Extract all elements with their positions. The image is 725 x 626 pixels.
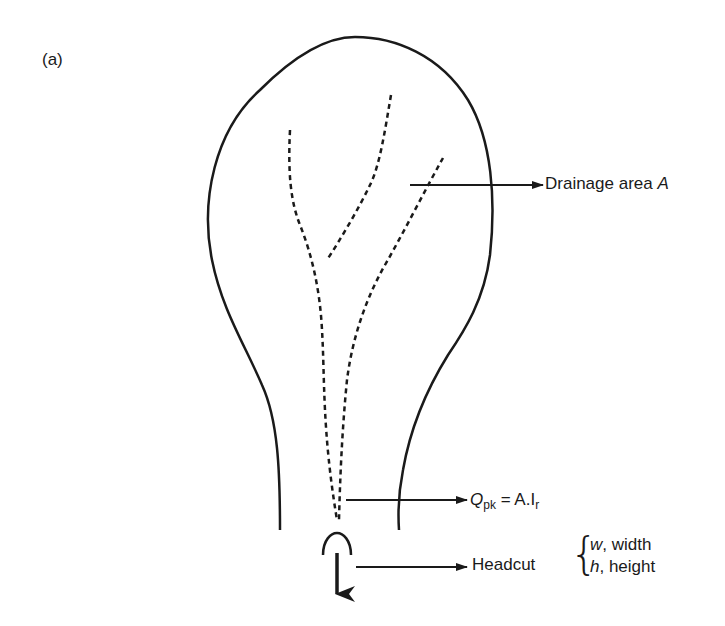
width-text: , width (602, 535, 651, 554)
peak-flow-equation: Qpk = A.Ir (470, 490, 539, 512)
headcut-height-label: h, height (590, 557, 655, 577)
headcut-arc (323, 533, 351, 555)
gully-headcut-diagram (0, 0, 725, 626)
headcut-width-label: w, width (590, 535, 651, 555)
drainage-area-text: Drainage area (545, 174, 657, 193)
drainage-area-label: Drainage area A (545, 174, 669, 194)
catchment-outline (208, 37, 492, 530)
peak-flow-rhs: = A.I (496, 490, 535, 509)
headcut-label: Headcut (472, 555, 535, 575)
drainage-area-symbol: A (657, 174, 668, 193)
peak-flow-rhs-subscript: r (535, 498, 539, 512)
height-text: , height (599, 557, 655, 576)
panel-label: (a) (42, 50, 63, 70)
width-symbol: w (590, 535, 602, 554)
peak-flow-symbol: Q (470, 490, 483, 509)
peak-flow-subscript: pk (483, 498, 496, 512)
dashed-drainage-channels (289, 95, 443, 520)
